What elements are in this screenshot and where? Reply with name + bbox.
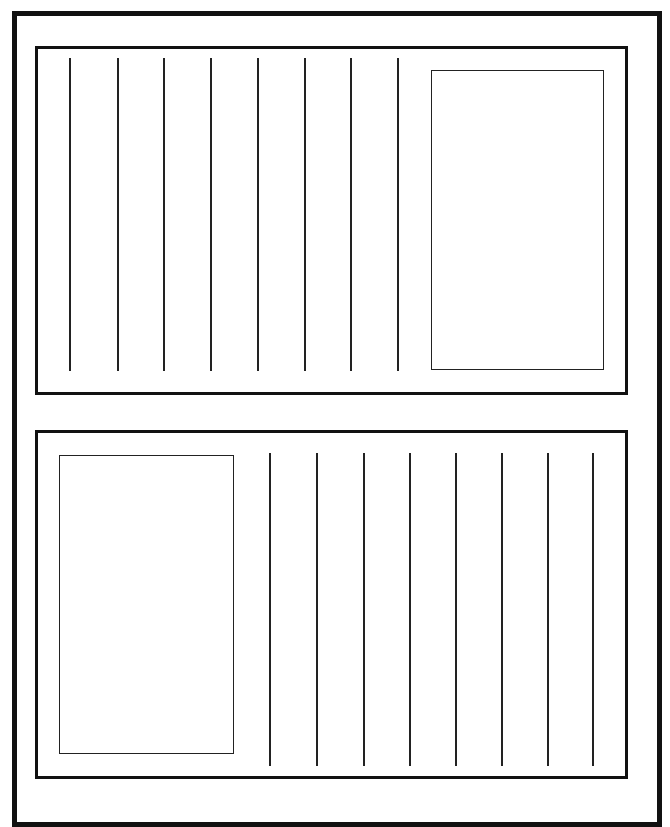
- top-panel-writing-line-3: [163, 58, 165, 371]
- top-panel-writing-line-8: [397, 58, 399, 371]
- bottom-panel-writing-line-5: [455, 453, 457, 766]
- page-title: [0, 0, 670, 6]
- bottom-panel-writing-line-6: [501, 453, 503, 766]
- bottom-panel-writing-line-4: [409, 453, 411, 766]
- top-panel-writing-line-4: [210, 58, 212, 371]
- bottom-panel-writing-line-7: [547, 453, 549, 766]
- top-panel-writing-line-1: [69, 58, 71, 371]
- top-panel-writing-line-5: [257, 58, 259, 371]
- top-panel-writing-line-2: [117, 58, 119, 371]
- top-panel-picture-box: [431, 70, 604, 370]
- bottom-panel-writing-line-3: [363, 453, 365, 766]
- bottom-panel-writing-line-2: [316, 453, 318, 766]
- bottom-panel-writing-line-8: [592, 453, 594, 766]
- bottom-panel-writing-line-1: [269, 453, 271, 766]
- top-panel-writing-line-6: [304, 58, 306, 371]
- bottom-panel-picture-box: [59, 455, 234, 754]
- top-panel-writing-line-7: [350, 58, 352, 371]
